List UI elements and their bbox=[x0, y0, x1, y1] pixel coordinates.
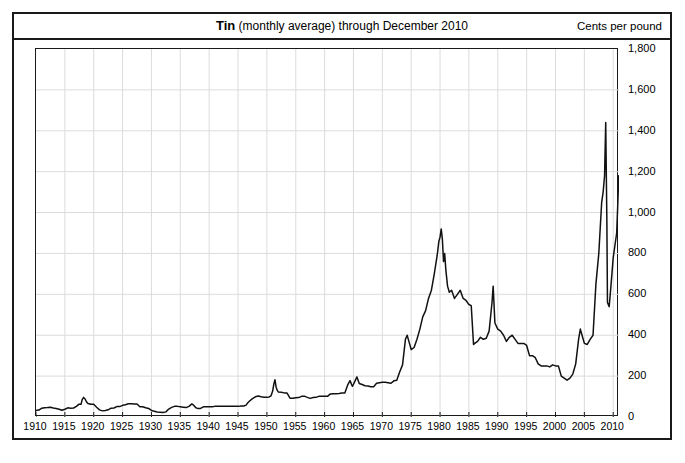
x-axis-tick-label: 1915 bbox=[52, 420, 75, 432]
y-axis-tick-label: 1,000 bbox=[628, 206, 656, 217]
x-axis-tick-label: 1945 bbox=[225, 420, 248, 432]
y-axis-tick-label: 1,800 bbox=[628, 43, 656, 54]
y-axis-tick-label: 200 bbox=[628, 370, 646, 381]
y-axis-labels: 02004006008001,0001,2001,4001,6001,800 bbox=[624, 48, 685, 416]
chart-title-commodity: Tin bbox=[216, 18, 235, 33]
x-axis-tick-label: 1965 bbox=[341, 420, 364, 432]
x-axis-labels: 1910191519201925193019351940194519501955… bbox=[35, 420, 618, 440]
chart-units-label: Cents per pound bbox=[577, 14, 662, 38]
y-axis-tick-label: 0 bbox=[628, 411, 634, 422]
x-axis-tick-label: 1910 bbox=[23, 420, 46, 432]
y-axis-tick-label: 1,400 bbox=[628, 124, 656, 135]
x-axis-tick-label: 1960 bbox=[312, 420, 335, 432]
y-axis-tick-label: 1,200 bbox=[628, 165, 656, 176]
series-line bbox=[36, 123, 619, 413]
chart-header: Tin (monthly average) through December 2… bbox=[14, 14, 670, 40]
x-axis-tick-label: 1950 bbox=[254, 420, 277, 432]
chart-canvas bbox=[36, 49, 619, 417]
y-axis-tick-label: 800 bbox=[628, 247, 646, 258]
x-axis-tick-label: 1995 bbox=[514, 420, 537, 432]
x-axis-tick-label: 1925 bbox=[110, 420, 133, 432]
x-axis-tick-label: 1935 bbox=[168, 420, 191, 432]
x-axis-tick-label: 1920 bbox=[81, 420, 104, 432]
x-axis-tick-label: 2010 bbox=[601, 420, 624, 432]
plot-area bbox=[35, 48, 618, 416]
chart-title: Tin (monthly average) through December 2… bbox=[14, 14, 670, 38]
chart-title-detail: (monthly average) through December 2010 bbox=[235, 19, 468, 33]
x-axis-tick-label: 1930 bbox=[139, 420, 162, 432]
x-axis-tick-label: 1990 bbox=[485, 420, 508, 432]
x-axis-tick-label: 2005 bbox=[572, 420, 595, 432]
y-axis-tick-label: 1,600 bbox=[628, 83, 656, 94]
x-axis-tick-label: 1940 bbox=[196, 420, 219, 432]
y-axis-tick-label: 600 bbox=[628, 288, 646, 299]
plot-area-wrapper bbox=[35, 48, 618, 416]
x-axis-tick-label: 1970 bbox=[370, 420, 393, 432]
x-axis-tick-label: 2000 bbox=[543, 420, 566, 432]
x-axis-tick-label: 1955 bbox=[283, 420, 306, 432]
x-axis-tick-label: 1985 bbox=[456, 420, 479, 432]
chart-frame: Tin (monthly average) through December 2… bbox=[12, 12, 672, 440]
x-axis-tick-label: 1975 bbox=[399, 420, 422, 432]
y-axis-tick-label: 400 bbox=[628, 329, 646, 340]
x-axis-tick-label: 1980 bbox=[427, 420, 450, 432]
